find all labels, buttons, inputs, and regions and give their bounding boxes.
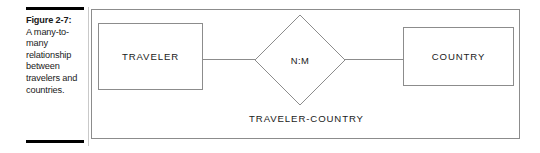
caption-bottom-rule bbox=[26, 140, 84, 143]
er-diagram-frame: TRAVELER N:M COUNTRY TRAVELER-COUNTRY bbox=[91, 9, 520, 139]
figure-page: Figure 2-7: A many-to-many relationship … bbox=[0, 0, 540, 153]
figure-caption-block: Figure 2-7: A many-to-many relationship … bbox=[26, 7, 86, 146]
relationship-diamond: N:M bbox=[254, 14, 346, 106]
entity-box-country: COUNTRY bbox=[403, 27, 514, 86]
caption-text: Figure 2-7: A many-to-many relationship … bbox=[26, 15, 88, 96]
relationship-cardinality-label: N:M bbox=[254, 14, 346, 106]
entity-label-traveler: TRAVELER bbox=[122, 51, 179, 62]
entity-box-traveler: TRAVELER bbox=[98, 23, 203, 90]
entity-label-country: COUNTRY bbox=[432, 51, 486, 62]
connector-relationship-to-country bbox=[345, 59, 404, 60]
caption-divider bbox=[88, 7, 89, 146]
connector-traveler-to-relationship bbox=[202, 59, 255, 60]
caption-top-rule bbox=[26, 7, 84, 10]
figure-description: A many-to-many relationship between trav… bbox=[26, 27, 88, 97]
relationship-name-label: TRAVELER-COUNTRY bbox=[92, 113, 521, 124]
figure-number-label: Figure 2-7: bbox=[26, 15, 88, 27]
